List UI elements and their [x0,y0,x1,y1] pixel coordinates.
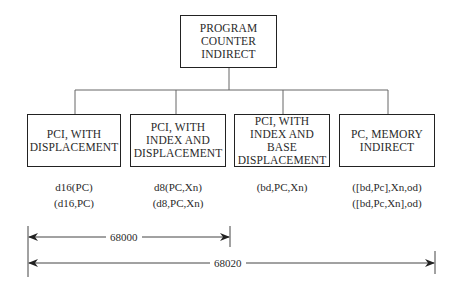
mode-node-pci-displacement: PCI, WITH DISPLACEMENT [27,114,121,167]
mode-syntax-3: (bd,PC,Xn) [234,179,330,195]
mode-node-label: PCI, WITH INDEX AND BASE DISPLACEMENT [235,115,329,167]
mode-node-label: PCI, WITH INDEX AND DISPLACEMENT [134,121,223,160]
root-node-program-counter-indirect: PROGRAM COUNTER INDIRECT [180,15,277,68]
mode-syntax-1: d16(PC) (d16,PC) [27,179,121,211]
mode-node-pci-index-base-displacement: PCI, WITH INDEX AND BASE DISPLACEMENT [234,114,330,167]
mode-syntax-2: d8(PC,Xn) (d8,PC,Xn) [130,179,226,211]
range-label-68000: 68000 [106,231,142,243]
mode-syntax-4: ([bd,Pc],Xn,od) ([bd,Pc,Xn],od) [334,179,440,211]
root-node-label: PROGRAM COUNTER INDIRECT [200,22,258,61]
mode-node-label: PCI, WITH DISPLACEMENT [30,128,119,154]
mode-node-pc-memory-indirect: PC, MEMORY INDIRECT [339,114,435,167]
mode-node-label: PC, MEMORY INDIRECT [351,128,423,154]
mode-node-pci-index-displacement: PCI, WITH INDEX AND DISPLACEMENT [130,114,226,167]
range-label-68020: 68020 [210,257,246,269]
